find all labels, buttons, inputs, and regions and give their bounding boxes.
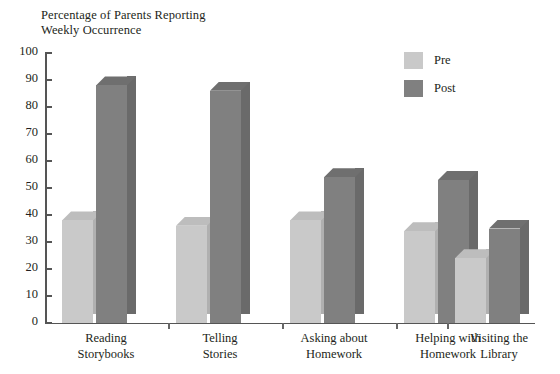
legend-label-pre: Pre <box>434 53 451 68</box>
y-axis-tick-label: 100 <box>0 44 38 59</box>
y-axis-tick-label: 20 <box>0 260 38 275</box>
page-top-edge <box>0 0 560 4</box>
y-axis-tick-label: 50 <box>0 179 38 194</box>
y-axis-tick <box>45 268 52 270</box>
x-axis-tick <box>282 323 284 329</box>
y-axis-tick-label: 70 <box>0 125 38 140</box>
y-axis-tick <box>45 52 52 54</box>
y-axis-tick <box>45 160 52 162</box>
category-label-3: Asking about Homework <box>274 330 394 362</box>
bar-front-face <box>324 177 355 323</box>
bar-front-face <box>290 220 321 323</box>
y-axis-tick <box>45 295 52 297</box>
bar-front-face <box>489 229 520 324</box>
legend-item-pre: Pre <box>404 48 456 72</box>
y-axis-tick <box>45 241 52 243</box>
chart-legend: Pre Post <box>404 48 456 104</box>
y-axis-tick <box>45 106 52 108</box>
bar-side-face <box>241 82 250 314</box>
bar-post-1 <box>96 76 127 323</box>
legend-swatch-pre-icon <box>404 52 423 69</box>
legend-label-post: Post <box>434 81 456 96</box>
y-axis-tick <box>45 133 52 135</box>
bar-pre-2 <box>176 217 207 323</box>
bar-pre-4 <box>404 222 435 323</box>
bar-front-face <box>96 85 127 323</box>
y-axis-tick <box>45 187 52 189</box>
y-axis-tick-label: 40 <box>0 206 38 221</box>
bar-side-face <box>355 168 364 314</box>
y-axis-tick-label: 10 <box>0 287 38 302</box>
bar-pre-3 <box>290 211 321 323</box>
y-axis-tick-label: 80 <box>0 98 38 113</box>
bar-front-face <box>62 220 93 323</box>
y-axis-tick-label: 0 <box>0 314 38 329</box>
bar-post-5 <box>489 220 520 324</box>
bar-side-face <box>127 76 136 314</box>
bar-chart: Percentage of Parents Reporting Weekly O… <box>0 0 560 374</box>
y-axis-tick <box>45 79 52 81</box>
category-label-5: Visiting the Library <box>439 330 559 362</box>
legend-swatch-post-icon <box>404 80 423 97</box>
y-axis-tick-label: 60 <box>0 152 38 167</box>
x-axis-tick <box>396 323 398 329</box>
category-label-1: Reading Storybooks <box>46 330 166 362</box>
y-axis-tick-label: 30 <box>0 233 38 248</box>
legend-item-post: Post <box>404 76 456 100</box>
x-axis-tick <box>168 323 170 329</box>
bar-pre-1 <box>62 211 93 323</box>
category-label-2: Telling Stories <box>160 330 280 362</box>
bar-post-3 <box>324 168 355 323</box>
bar-front-face <box>404 231 435 323</box>
bar-side-face <box>520 220 529 315</box>
y-axis-tick-label: 90 <box>0 71 38 86</box>
bar-front-face <box>455 258 486 323</box>
y-axis-tick <box>45 214 52 216</box>
y-axis-tick <box>45 322 52 324</box>
bar-pre-5 <box>455 249 486 323</box>
plot-area: 0102030405060708090100 Reading Storybook… <box>0 0 560 374</box>
bar-front-face <box>176 226 207 323</box>
x-axis-tick <box>447 323 449 329</box>
bar-post-2 <box>210 82 241 323</box>
bar-front-face <box>210 91 241 323</box>
